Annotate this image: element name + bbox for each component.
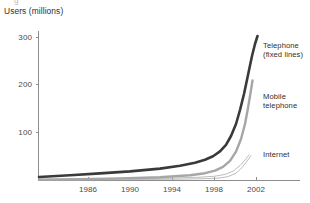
x-tick-label-1994: 1994: [155, 185, 189, 194]
series-line-telephone-fixed: [39, 36, 258, 177]
series-label-internet: Internet: [263, 150, 290, 159]
y-tick-label-300: 300: [6, 33, 32, 42]
chart-figure: g Users (millions) 300: [0, 0, 310, 203]
series-label-mobile-line2: telephone: [263, 101, 297, 110]
x-tick-label-1998: 1998: [197, 185, 231, 194]
series-label-mobile-line1: Mobile: [263, 92, 297, 101]
series-label-internet-line1: Internet: [263, 150, 290, 159]
x-tick-label-1990: 1990: [113, 185, 147, 194]
series-label-telephone-line1: Telephone: [263, 41, 303, 50]
series-label-mobile-telephone: Mobile telephone: [263, 92, 297, 111]
series-label-telephone-fixed: Telephone (fixed lines): [263, 41, 303, 60]
y-tick-label-200: 200: [6, 80, 32, 89]
x-tick-label-2002: 2002: [239, 185, 273, 194]
series-line-mobile-telephone: [39, 81, 253, 180]
series-label-telephone-line2: (fixed lines): [263, 50, 303, 59]
y-tick-label-100: 100: [6, 128, 32, 137]
x-tick-label-1986: 1986: [71, 185, 105, 194]
